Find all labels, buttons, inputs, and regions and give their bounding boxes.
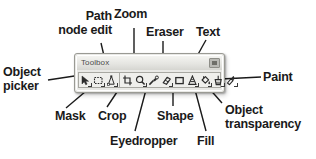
submenu-arrow-icon bbox=[234, 83, 238, 87]
tool-eyedropper[interactable] bbox=[147, 73, 160, 87]
toolbox-window[interactable]: Toolbox bbox=[74, 53, 225, 93]
label-zoom: Zoom bbox=[114, 8, 162, 22]
tool-object-transparency[interactable] bbox=[212, 73, 225, 87]
tool-paint[interactable] bbox=[225, 73, 238, 87]
label-paint: Paint bbox=[263, 71, 313, 85]
submenu-arrow-icon bbox=[208, 83, 212, 87]
submenu-arrow-icon bbox=[114, 83, 118, 87]
label-path-node-edit: Path node edit bbox=[52, 10, 112, 37]
submenu-arrow-icon bbox=[195, 83, 199, 87]
tool-mask[interactable] bbox=[92, 73, 105, 87]
annotated-toolbox-figure: Path node edit Zoom Eraser Text Object p… bbox=[0, 0, 316, 159]
label-mask: Mask bbox=[55, 110, 95, 124]
label-text: Text bbox=[196, 26, 236, 40]
label-shape: Shape bbox=[157, 110, 201, 124]
label-eyedropper: Eyedropper bbox=[110, 135, 190, 149]
submenu-arrow-icon bbox=[88, 83, 92, 87]
tool-shape[interactable] bbox=[173, 73, 186, 87]
tool-fill[interactable] bbox=[199, 73, 212, 87]
toolbox-titlebar[interactable]: Toolbox bbox=[77, 56, 222, 70]
tool-path-node-edit[interactable] bbox=[105, 73, 118, 87]
submenu-arrow-icon bbox=[143, 83, 147, 87]
label-fill: Fill bbox=[197, 135, 227, 149]
submenu-arrow-icon bbox=[101, 83, 105, 87]
tool-button-row[interactable] bbox=[78, 72, 221, 88]
submenu-arrow-icon bbox=[221, 83, 225, 87]
label-crop: Crop bbox=[98, 110, 138, 124]
tool-crop[interactable] bbox=[119, 73, 134, 87]
tool-eraser[interactable] bbox=[160, 73, 173, 87]
tool-text[interactable] bbox=[186, 73, 199, 87]
toolbox-title: Toolbox bbox=[81, 57, 109, 69]
tool-zoom[interactable] bbox=[134, 73, 147, 87]
label-object-transparency: Object transparency bbox=[225, 104, 316, 131]
tool-object-picker[interactable] bbox=[79, 73, 92, 87]
menu-button[interactable] bbox=[209, 58, 220, 68]
label-object-picker: Object picker bbox=[3, 66, 51, 93]
label-eraser: Eraser bbox=[146, 26, 194, 40]
submenu-arrow-icon bbox=[169, 83, 173, 87]
